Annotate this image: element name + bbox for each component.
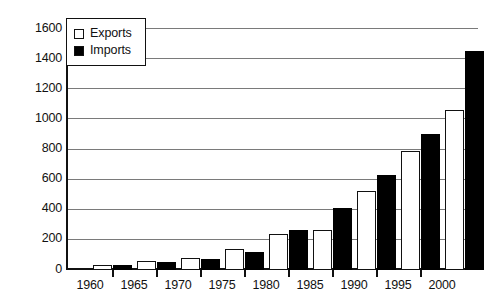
y-tick-label: 600 bbox=[4, 172, 62, 185]
x-tick bbox=[420, 270, 422, 277]
bar-imports-1970 bbox=[201, 259, 220, 270]
bar-exports-1985 bbox=[313, 230, 332, 270]
y-tick-label: 1600 bbox=[4, 22, 62, 35]
bar-imports-1985 bbox=[333, 208, 352, 270]
bar-exports-1980 bbox=[269, 234, 288, 270]
legend-swatch-imports-icon bbox=[74, 46, 84, 56]
bar-exports-2000 bbox=[445, 110, 464, 270]
x-tick bbox=[156, 270, 158, 277]
y-tick-label: 200 bbox=[4, 232, 62, 245]
bar-imports-1980 bbox=[289, 230, 308, 270]
y-axis-labels: 1600 1400 1200 1000 800 600 400 200 0 bbox=[0, 0, 62, 301]
bar-imports-1975 bbox=[245, 252, 264, 270]
y-tick-label: 0 bbox=[4, 263, 62, 276]
legend-swatch-exports-icon bbox=[74, 29, 84, 39]
bar-imports-1995 bbox=[421, 134, 440, 270]
bar-exports-1965 bbox=[137, 261, 156, 270]
x-tick bbox=[112, 270, 114, 277]
x-tick bbox=[244, 270, 246, 277]
x-tick bbox=[376, 270, 378, 277]
y-tick-label: 1400 bbox=[4, 52, 62, 65]
bar-exports-1960 bbox=[93, 265, 112, 270]
x-tick bbox=[200, 270, 202, 277]
legend-item-exports: Exports bbox=[74, 25, 137, 42]
x-tick bbox=[288, 270, 290, 277]
bar-exports-1990 bbox=[357, 191, 376, 270]
y-tick-label: 1200 bbox=[4, 82, 62, 95]
legend-item-imports: Imports bbox=[74, 42, 137, 59]
bar-imports-1965 bbox=[157, 262, 176, 270]
bar-exports-1975 bbox=[225, 249, 244, 270]
legend-label-imports: Imports bbox=[90, 44, 131, 57]
x-tick-label: 2000 bbox=[412, 278, 472, 292]
x-tick bbox=[332, 270, 334, 277]
bar-chart: 1600 1400 1200 1000 800 600 400 200 0 19… bbox=[0, 0, 492, 301]
y-tick-label: 1000 bbox=[4, 112, 62, 125]
bar-imports-2000 bbox=[465, 51, 484, 270]
y-tick-label: 800 bbox=[4, 142, 62, 155]
bar-exports-1970 bbox=[181, 258, 200, 270]
bar-imports-1990 bbox=[377, 175, 396, 270]
legend: Exports Imports bbox=[66, 18, 146, 66]
bar-imports-1960 bbox=[113, 265, 132, 270]
bar-exports-1995 bbox=[401, 151, 420, 270]
y-tick-label: 400 bbox=[4, 202, 62, 215]
legend-label-exports: Exports bbox=[90, 27, 132, 40]
